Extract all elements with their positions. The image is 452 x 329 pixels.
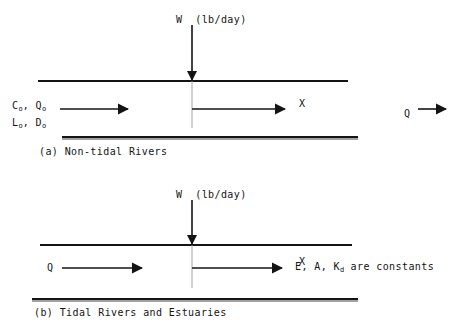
panel-a-co-qo-separator: , Q bbox=[23, 100, 42, 111]
diagram-canvas bbox=[0, 0, 452, 329]
panel-a-distance-label: X bbox=[299, 98, 305, 109]
panel-b-constants-label: E, A, Kd are constants bbox=[295, 261, 434, 276]
panel-b-caption: (b) Tidal Rivers and Estuaries bbox=[34, 307, 227, 318]
panel-b-flow-label: Q bbox=[47, 262, 53, 273]
panel-a-load-label: W (lb/day) bbox=[176, 14, 247, 25]
panel-b-constants-symbols: E, A, K bbox=[295, 261, 340, 272]
panel-a-upstream-concentration-label: Co, Qo bbox=[12, 100, 46, 115]
panel-b-load-label: W (lb/day) bbox=[176, 189, 247, 200]
panel-a-outflow-label: Q bbox=[404, 108, 410, 119]
figure-container: W (lb/day) X Q Co, Qo Lo, Do (a) Non-tid… bbox=[0, 0, 452, 329]
panel-a-upstream-bod-label: Lo, Do bbox=[12, 117, 46, 132]
panel-a-qo-subscript: o bbox=[42, 105, 46, 113]
panel-a-caption: (a) Non-tidal Rivers bbox=[39, 146, 167, 157]
panel-b-constants-tail: are constants bbox=[344, 261, 434, 272]
panel-a-lo-do-separator: , D bbox=[23, 117, 42, 128]
panel-a-do-subscript: o bbox=[42, 122, 46, 130]
